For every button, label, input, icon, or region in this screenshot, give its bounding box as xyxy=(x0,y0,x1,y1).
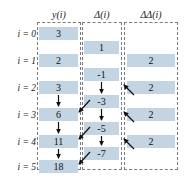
cell-delta-delta-1: 2 xyxy=(127,81,175,94)
cell-y-4: 11 xyxy=(39,135,78,148)
row-label-i2: i = 2 xyxy=(2,82,36,94)
cell-delta-0: 1 xyxy=(84,41,119,54)
cell-delta-1: -1 xyxy=(84,68,119,81)
cell-y-3: 6 xyxy=(39,108,78,121)
cell-y-0: 3 xyxy=(39,27,78,40)
cell-y-2: 3 xyxy=(39,81,78,94)
cell-delta-delta-0: 2 xyxy=(127,54,175,67)
difference-table-figure: y(i) Δ(i) ΔΔ(i) i = 0 i = 1 i = 2 i = 3 … xyxy=(0,0,186,179)
cell-y-5: 18 xyxy=(39,160,78,173)
column-header-y: y(i) xyxy=(39,8,79,21)
cell-delta-3: -5 xyxy=(84,122,119,135)
column-header-delta-delta: ΔΔ(i) xyxy=(126,8,176,21)
row-label-i3: i = 3 xyxy=(2,109,36,121)
row-label-i5: i = 5 xyxy=(2,161,36,173)
cell-delta-delta-2: 2 xyxy=(127,108,175,121)
cell-delta-4: -7 xyxy=(84,147,119,160)
cell-delta-delta-3: 2 xyxy=(127,135,175,148)
row-label-i4: i = 4 xyxy=(2,136,36,148)
cell-delta-2: -3 xyxy=(84,95,119,108)
row-label-i1: i = 1 xyxy=(2,55,36,67)
column-header-delta: Δ(i) xyxy=(83,8,121,21)
row-label-i0: i = 0 xyxy=(2,28,36,40)
cell-y-1: 2 xyxy=(39,54,78,67)
